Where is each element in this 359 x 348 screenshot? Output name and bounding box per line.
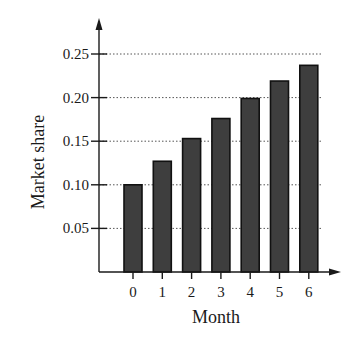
x-tick-label: 3	[217, 284, 225, 300]
x-axis-title: Month	[192, 307, 240, 327]
x-ticks: 0123456	[129, 272, 313, 300]
x-tick-label: 4	[246, 284, 254, 300]
y-axis-title: Market share	[28, 115, 48, 209]
bar-month-4	[241, 98, 259, 272]
y-tick-label: 0.20	[63, 90, 89, 106]
bar-month-1	[153, 161, 171, 272]
bar-chart: 0.050.100.150.200.25 0123456 Month Marke…	[0, 0, 359, 348]
x-tick-label: 6	[305, 284, 313, 300]
x-tick-label: 2	[188, 284, 196, 300]
bars	[124, 65, 318, 272]
y-tick-label: 0.05	[63, 220, 89, 236]
x-tick-label: 1	[159, 284, 167, 300]
bar-month-6	[300, 65, 318, 272]
y-ticks: 0.050.100.150.200.25	[63, 46, 107, 236]
x-axis-arrow-icon	[329, 269, 341, 276]
x-tick-label: 0	[129, 284, 137, 300]
bar-month-5	[271, 81, 289, 272]
y-tick-label: 0.25	[63, 46, 89, 62]
y-tick-label: 0.15	[63, 133, 89, 149]
y-tick-label: 0.10	[63, 177, 89, 193]
bar-month-2	[183, 139, 201, 272]
bar-month-3	[212, 119, 230, 272]
bar-month-0	[124, 185, 142, 272]
y-axis-arrow-icon	[96, 18, 103, 30]
x-tick-label: 5	[276, 284, 284, 300]
